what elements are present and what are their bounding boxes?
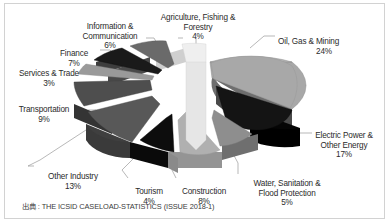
label-construction-name: Construction — [182, 187, 226, 196]
label-information-name: Information & Communication — [83, 22, 138, 40]
slice-agriculture-body — [186, 62, 206, 150]
label-information-pct: 6% — [58, 41, 162, 50]
label-water-name: Water, Sanitation & Flood Protection — [254, 179, 321, 197]
chart-page: Agriculture, Fishing & Forestry 4% Oil, … — [0, 0, 389, 224]
label-electric-name: Electric Power & Other Energy — [315, 131, 373, 149]
label-electric-pct: 17% — [300, 150, 388, 159]
label-agriculture-name: Agriculture, Fishing & Forestry — [161, 13, 236, 31]
label-services-pct: 3% — [2, 79, 96, 88]
label-water-pct: 5% — [233, 198, 341, 207]
label-finance-pct: 7% — [46, 59, 102, 68]
label-transportation: Transportation 9% — [4, 96, 84, 133]
label-oil-name: Oil, Gas & Mining — [278, 37, 339, 46]
pie-chart: Agriculture, Fishing & Forestry 4% Oil, … — [0, 0, 389, 224]
label-other-pct: 13% — [28, 182, 118, 191]
label-oil-gas-mining: Oil, Gas & Mining 24% — [278, 28, 386, 65]
label-oil-pct: 24% — [278, 47, 370, 56]
label-other-name: Other Industry — [48, 172, 98, 181]
label-information-communication: Information & Communication 6% — [58, 13, 162, 59]
source-caption: 出典 : THE ICSID CASELOAD-STATISTICS (ISSU… — [22, 200, 214, 211]
label-electric-power: Electric Power & Other Energy 17% — [300, 122, 388, 168]
label-transportation-pct: 9% — [4, 115, 84, 124]
label-water-sanitation: Water, Sanitation & Flood Protection 5% — [233, 170, 341, 216]
label-transportation-name: Transportation — [19, 105, 69, 114]
label-other-industry: Other Industry 13% — [28, 163, 118, 200]
label-tourism-name: Tourism — [135, 187, 163, 196]
